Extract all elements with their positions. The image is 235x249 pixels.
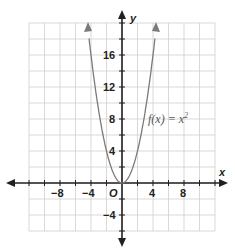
y-tick-label: 16 <box>103 49 115 61</box>
x-axis-label: x <box>218 166 226 178</box>
x-tick-label: 8 <box>180 187 186 199</box>
x-tick-label: −8 <box>51 187 64 199</box>
y-arrow-up-icon <box>118 10 126 19</box>
x-tick-label: −4 <box>82 187 95 199</box>
y-axis-label: y <box>129 12 137 24</box>
x-tick-label: 4 <box>149 187 156 199</box>
y-tick-label: 4 <box>109 145 116 157</box>
y-tick-label: 12 <box>103 81 115 93</box>
chart: y x O −8 −4 4 8 16 12 8 4 −4 f(x) = x2 <box>0 0 235 249</box>
y-arrow-down-icon <box>118 238 126 247</box>
plot-area: y x O −8 −4 4 8 16 12 8 4 −4 f(x) = x2 <box>0 0 235 249</box>
x-arrow-left-icon <box>6 179 15 187</box>
y-tick-label: −4 <box>103 209 116 221</box>
x-arrow-right-icon <box>219 179 228 187</box>
axes <box>10 14 224 243</box>
y-tick-label: 8 <box>109 113 115 125</box>
origin-label: O <box>109 187 118 199</box>
function-label: f(x) = x2 <box>148 111 188 126</box>
